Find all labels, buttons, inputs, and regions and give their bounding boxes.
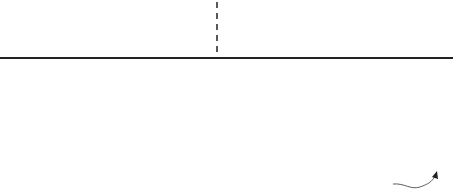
wall-stripe-diagram bbox=[0, 0, 473, 192]
arrowhead-icon bbox=[432, 171, 438, 179]
painters-tape-arrow bbox=[393, 176, 435, 188]
